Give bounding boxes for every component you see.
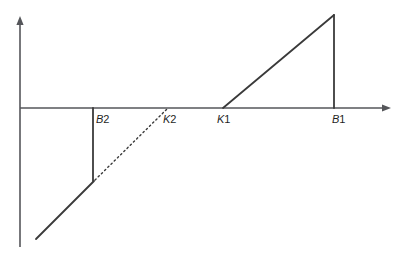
axis-labels: B2K2K1B1 — [96, 113, 345, 125]
diagram-canvas: B2K2K1B1 — [0, 0, 402, 256]
axis-label-B1: B1 — [332, 113, 345, 125]
axis-label-B1-digit: 1 — [339, 113, 345, 125]
axis-label-K1: K1 — [217, 113, 230, 125]
payoff-diagram-figure: B2K2K1B1 — [0, 0, 402, 256]
upper-branch-diagonal-solid — [223, 15, 334, 108]
y-axis-arrow-icon — [16, 16, 23, 25]
function-segments — [36, 15, 334, 239]
axis-label-B2-letter: B — [96, 113, 103, 125]
axis-label-K2-digit: 2 — [170, 113, 176, 125]
axis-label-K2: K2 — [163, 113, 176, 125]
axis-label-K1-digit: 1 — [224, 113, 230, 125]
axis-label-B2: B2 — [96, 113, 109, 125]
x-axis-arrow-icon — [382, 104, 391, 111]
axis-label-B2-digit: 2 — [103, 113, 109, 125]
axis-label-B1-letter: B — [332, 113, 339, 125]
lower-branch-diagonal-solid — [36, 181, 94, 239]
